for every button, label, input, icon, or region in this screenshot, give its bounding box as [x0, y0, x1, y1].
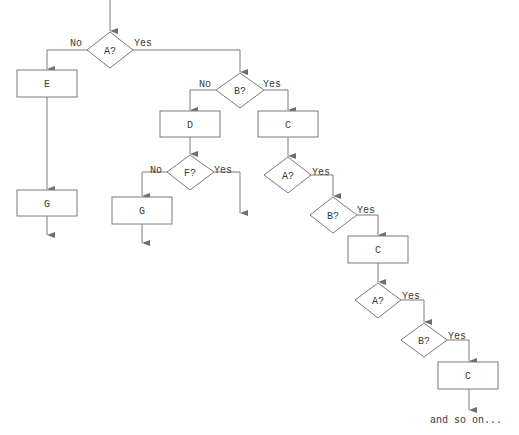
edge-b2-yes [357, 215, 378, 235]
process-d: D [160, 111, 220, 137]
label-b2-yes: Yes [357, 205, 375, 216]
decision-a3-label: A? [372, 296, 384, 307]
decision-b1: B? [216, 73, 264, 108]
edge-a3-yes [401, 300, 424, 322]
process-c2-label: C [375, 245, 381, 256]
label-a2-yes: Yes [312, 167, 330, 178]
process-g1-label: G [44, 199, 50, 210]
decision-a3: A? [355, 283, 401, 318]
edge-b1-yes [264, 90, 288, 110]
label-a1-yes: Yes [134, 38, 152, 49]
edge-b3-yes [447, 340, 469, 361]
decision-b2: B? [310, 197, 357, 233]
decision-f: F? [167, 155, 214, 190]
edge-a2-yes [311, 175, 333, 196]
process-g2-label: G [139, 206, 145, 217]
edge-a1-yes [133, 50, 240, 72]
edge-b1-no [190, 90, 216, 110]
label-f-no: No [150, 165, 162, 176]
continuation-text: and so on... [430, 415, 502, 426]
process-e: E [17, 70, 77, 97]
label-f-yes: Yes [214, 165, 232, 176]
edge-a1-no [47, 50, 87, 69]
process-g2: G [112, 197, 172, 224]
flowchart-canvas: A? E G B? D C F? G A? B? C A? [0, 0, 519, 435]
process-c3-label: C [465, 371, 471, 382]
decision-f-label: F? [184, 168, 196, 179]
decision-a1: A? [87, 32, 133, 68]
process-c1-label: C [285, 120, 291, 131]
decision-b3-label: B? [418, 336, 430, 347]
process-d-label: D [187, 120, 193, 131]
label-b1-no: No [199, 79, 211, 90]
decision-a2: A? [264, 157, 311, 193]
process-g1: G [17, 190, 77, 216]
process-c2: C [348, 236, 408, 263]
label-b1-yes: Yes [263, 79, 281, 90]
decision-b2-label: B? [327, 211, 339, 222]
decision-a1-label: A? [104, 46, 116, 57]
label-a1-no: No [70, 38, 82, 49]
label-a3-yes: Yes [402, 291, 420, 302]
decision-a2-label: A? [282, 171, 294, 182]
decision-b1-label: B? [234, 86, 246, 97]
edge-labels: No Yes No Yes No Yes Yes Yes Yes Yes [70, 38, 466, 342]
decision-b3: B? [401, 323, 447, 357]
label-b3-yes: Yes [448, 331, 466, 342]
process-c3: C [438, 362, 498, 389]
edge-f-yes [214, 172, 240, 213]
process-e-label: E [44, 79, 50, 90]
process-c1: C [258, 111, 318, 137]
